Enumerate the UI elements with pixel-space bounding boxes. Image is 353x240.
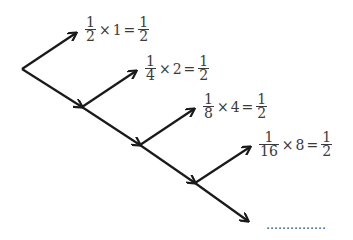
trunk-arrow-2 — [82, 107, 140, 145]
result-fraction: 12 — [198, 55, 209, 82]
equation-2: 14 × 2 = 12 — [144, 55, 210, 82]
branch-arrow-1 — [22, 33, 76, 69]
equation-3: 18 × 4 = 12 — [202, 93, 268, 120]
equation-4: 116 × 8 = 12 — [258, 131, 333, 158]
trunk-arrow-1 — [22, 69, 82, 107]
fraction: 116 — [259, 131, 279, 158]
trunk-arrow-4 — [195, 183, 248, 221]
fraction: 18 — [203, 93, 214, 120]
continuation-ellipsis: …………… — [266, 218, 326, 232]
result-fraction: 12 — [321, 131, 332, 158]
trunk-arrow-3 — [140, 145, 195, 183]
branch-arrow-3 — [140, 109, 194, 145]
result-fraction: 12 — [138, 16, 149, 43]
result-fraction: 12 — [256, 93, 267, 120]
arrow-tree — [0, 0, 353, 240]
branch-arrow-2 — [82, 71, 136, 107]
fraction: 12 — [85, 16, 96, 43]
equation-1: 12 × 1 = 12 — [84, 16, 150, 43]
branch-arrow-4 — [195, 147, 250, 183]
fraction: 14 — [145, 55, 156, 82]
